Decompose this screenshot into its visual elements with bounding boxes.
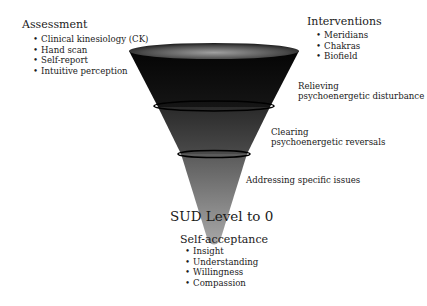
interventions-title: Interventions (307, 16, 382, 28)
funnel-section-bottom (181, 154, 247, 245)
self-acceptance-item: Compassion (185, 278, 258, 289)
assessment-list: Clinical kinesiology (CK) Hand scan Self… (33, 34, 148, 76)
interventions-item: Meridians (316, 30, 368, 41)
assessment-item: Self-report (33, 55, 148, 66)
interventions-item: Chakras (316, 41, 368, 52)
funnel-section-top (129, 51, 299, 107)
self-acceptance-list: Insight Understanding Willingness Compas… (185, 246, 258, 288)
funnel-rim (129, 43, 299, 59)
interventions-item: Biofield (316, 51, 368, 62)
stage-label-clearing: Clearing psychoenergetic reversals (271, 127, 385, 147)
stage-label-addressing: Addressing specific issues (246, 175, 360, 185)
sud-level-title: SUD Level to 0 (170, 209, 273, 224)
interventions-list: Meridians Chakras Biofield (316, 30, 368, 62)
assessment-item: Clinical kinesiology (CK) (33, 34, 148, 45)
self-acceptance-item: Insight (185, 246, 258, 257)
self-acceptance-title: Self-acceptance (180, 234, 268, 246)
assessment-title: Assessment (22, 19, 87, 31)
self-acceptance-item: Willingness (185, 267, 258, 278)
self-acceptance-item: Understanding (185, 257, 258, 268)
assessment-item: Hand scan (33, 45, 148, 56)
stage-label-relieving: Relieving psychoenergetic disturbance (298, 81, 424, 101)
funnel-section-middle (158, 107, 270, 154)
assessment-item: Intuitive perception (33, 66, 148, 77)
